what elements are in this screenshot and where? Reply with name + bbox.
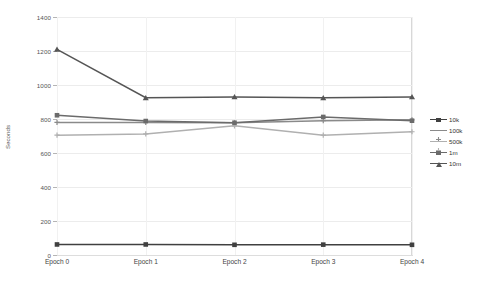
series-10k [55,242,415,247]
data-point-marker [410,243,415,248]
data-point-marker [54,133,59,138]
legend-label: 100k [449,127,462,134]
legend-item-10m[interactable]: 10m [430,158,482,169]
series-layer [0,0,484,281]
data-point-marker [232,243,237,248]
legend-item-100k[interactable]: 100k [430,125,482,136]
chart-legend: 10k100k500k1m10m [430,114,482,169]
data-point-marker [54,120,59,125]
data-point-marker [321,115,326,120]
legend-swatch-icon [430,137,447,147]
data-point-marker [321,242,326,247]
data-point-marker [55,242,60,247]
data-point-marker [54,47,60,52]
legend-swatch-icon [430,115,447,125]
legend-swatch-icon [430,159,447,169]
data-point-marker [143,131,148,136]
series-1m [55,113,415,125]
legend-item-10k[interactable]: 10k [430,114,482,125]
legend-item-500k[interactable]: 500k [430,136,482,147]
legend-swatch-icon [430,126,447,136]
legend-label: 1m [449,149,458,156]
chart-container: 0200400600800100012001400 Epoch 0Epoch 1… [0,0,484,281]
data-point-marker [143,242,148,247]
data-point-marker [232,120,237,125]
legend-item-1m[interactable]: 1m [430,147,482,158]
legend-label: 10k [449,116,459,123]
data-point-marker [143,119,148,124]
data-point-marker [410,118,415,123]
data-point-marker [409,129,414,134]
data-point-marker [55,113,60,118]
series-line [57,49,412,97]
legend-label: 10m [449,160,461,167]
data-point-marker [321,133,326,138]
series-10m [54,47,415,101]
legend-label: 500k [449,138,462,145]
legend-swatch-icon [430,148,447,158]
series-500k [54,123,414,138]
